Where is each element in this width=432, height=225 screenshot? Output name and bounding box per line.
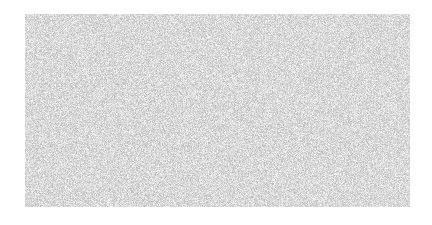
random-noise-texture (25, 14, 410, 207)
noise-image-root (0, 0, 432, 225)
